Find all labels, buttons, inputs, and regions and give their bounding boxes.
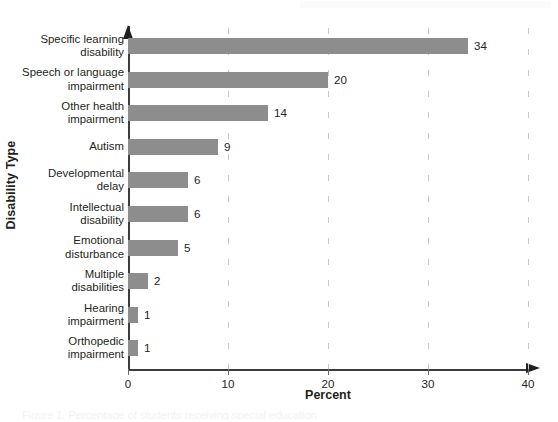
bar-value-label: 1 — [144, 340, 150, 356]
top-edge-artifact — [300, 1, 550, 8]
category-label-line: disability — [18, 214, 124, 227]
bar-value-label: 6 — [194, 172, 200, 188]
category-label-line: impairment — [18, 113, 124, 126]
bar — [128, 240, 178, 256]
category-label: Hearingimpairment — [18, 302, 124, 328]
bar-value-label: 1 — [144, 307, 150, 323]
category-label-line: impairment — [18, 80, 124, 93]
category-label-line: Orthopedic — [18, 335, 124, 348]
plot-area: 010203040 3420149665211 — [128, 16, 538, 370]
category-label-line: Multiple — [18, 268, 124, 281]
category-label-line: impairment — [18, 315, 124, 328]
bar — [128, 38, 468, 54]
category-label: Multipledisabilities — [18, 268, 124, 294]
bar-value-label: 20 — [334, 72, 347, 88]
category-label: Intellectualdisability — [18, 201, 124, 227]
category-label-column: Specific learningdisabilitySpeech or lan… — [18, 26, 124, 364]
category-label-line: Autism — [18, 140, 124, 153]
bar — [128, 72, 328, 88]
bar-series: 3420149665211 — [128, 16, 538, 370]
bar — [128, 172, 188, 188]
x-axis-title: Percent — [128, 388, 528, 402]
category-label-line: Specific learning — [18, 33, 124, 46]
bar-value-label: 2 — [154, 273, 160, 289]
category-label: Developmentaldelay — [18, 167, 124, 193]
category-label: Orthopedicimpairment — [18, 335, 124, 361]
bar-value-label: 9 — [224, 139, 230, 155]
category-label-line: disabilities — [18, 281, 124, 294]
category-label-line: impairment — [18, 348, 124, 361]
category-label-line: delay — [18, 180, 124, 193]
bar — [128, 139, 218, 155]
bar — [128, 273, 148, 289]
caption-remnant: Figure 1. Percentage of students receivi… — [22, 409, 342, 420]
bar — [128, 307, 138, 323]
category-label: Other healthimpairment — [18, 100, 124, 126]
category-label-line: Developmental — [18, 167, 124, 180]
category-label-line: Intellectual — [18, 201, 124, 214]
bar — [128, 340, 138, 356]
category-label: Autism — [18, 140, 124, 153]
bar — [128, 206, 188, 222]
bar-value-label: 6 — [194, 206, 200, 222]
category-label: Emotionaldisturbance — [18, 234, 124, 260]
category-label-line: Emotional — [18, 234, 124, 247]
bar-value-label: 14 — [274, 105, 287, 121]
category-label: Speech or languageimpairment — [18, 66, 124, 92]
bar — [128, 105, 268, 121]
category-label-line: disturbance — [18, 248, 124, 261]
bar-value-label: 34 — [474, 38, 487, 54]
category-label: Specific learningdisability — [18, 33, 124, 59]
category-label-line: Speech or language — [18, 66, 124, 79]
y-axis-title-text: Disability Type — [4, 141, 18, 230]
category-label-line: Other health — [18, 100, 124, 113]
bar-chart-figure: Disability Type Specific learningdisabil… — [0, 0, 558, 422]
category-label-line: Hearing — [18, 302, 124, 315]
category-label-line: disability — [18, 46, 124, 59]
bar-value-label: 5 — [184, 240, 190, 256]
